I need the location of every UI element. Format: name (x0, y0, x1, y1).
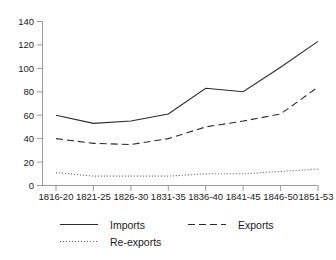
x-tick-label-1: 1821-25 (76, 191, 111, 202)
x-tick-label-5: 1841-45 (226, 191, 261, 202)
legend-label-imports: Imports (110, 219, 145, 231)
x-tick-label-3: 1831-35 (151, 191, 186, 202)
y-tick-label-0: 0 (29, 180, 34, 191)
chart-canvas: 140 120 100 80 60 40 20 0 1816-20 1821-2… (0, 0, 336, 260)
line-chart: 140 120 100 80 60 40 20 0 1816-20 1821-2… (0, 0, 336, 260)
y-tick-label-80: 80 (23, 86, 34, 97)
x-tick-label-6: 1846-50 (263, 191, 298, 202)
y-tick-label-60: 60 (23, 110, 34, 121)
x-tick-label-4: 1836-40 (188, 191, 223, 202)
y-tick-label-140: 140 (18, 16, 34, 27)
y-tick-label-20: 20 (23, 157, 34, 168)
legend-label-exports: Exports (238, 219, 274, 231)
legend-label-re-exports: Re-exports (110, 236, 161, 248)
y-tick-label-120: 120 (18, 39, 34, 50)
chart-background (0, 0, 336, 260)
y-tick-label-100: 100 (18, 63, 34, 74)
x-tick-label-0: 1816-20 (39, 191, 74, 202)
y-tick-label-40: 40 (23, 133, 34, 144)
x-tick-label-2: 1826-30 (113, 191, 148, 202)
x-tick-label-7: 1851-53 (299, 191, 334, 202)
